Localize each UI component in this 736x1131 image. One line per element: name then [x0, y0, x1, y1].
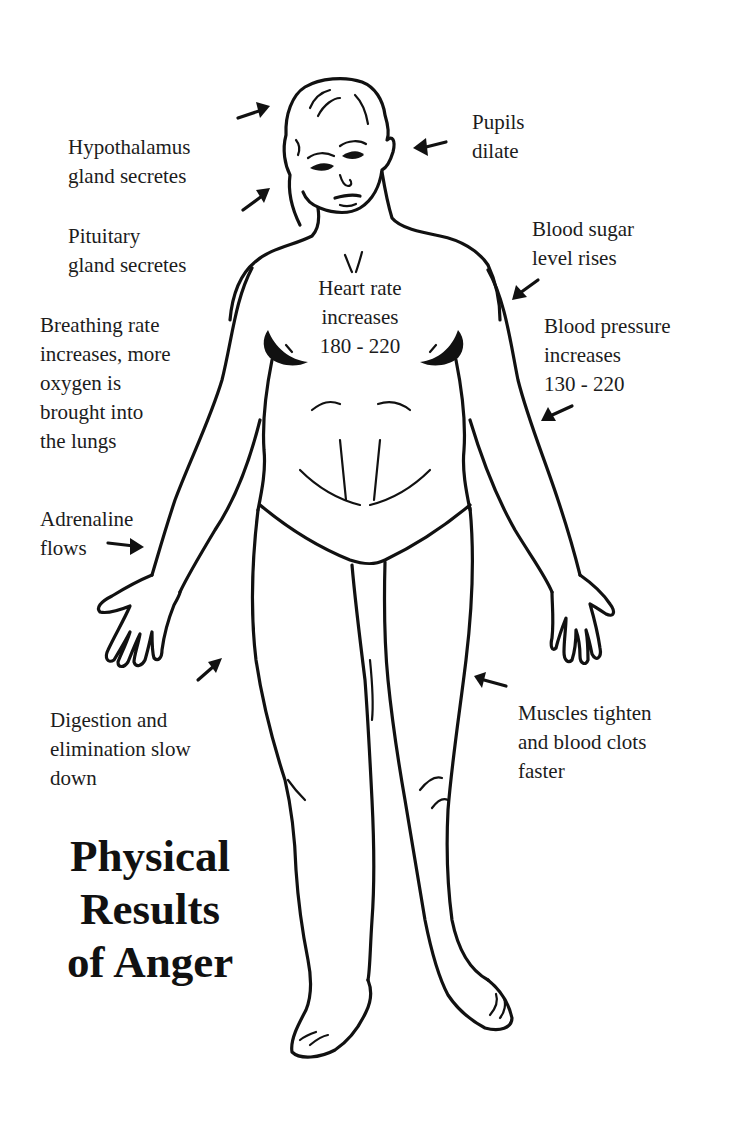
pituitary-arrow	[243, 188, 270, 210]
head	[284, 79, 394, 225]
title-line-1: Physical	[40, 830, 260, 883]
pupils-arrow	[413, 138, 446, 156]
pupils-label: Pupils dilate	[472, 108, 525, 166]
torso	[230, 172, 500, 564]
digestion-arrow	[198, 658, 222, 680]
breathing-label: Breathing rate increases, more oxygen is…	[40, 311, 171, 456]
hypothalamus-label: Hypothalamus gland secretes	[68, 133, 190, 191]
digestion-label: Digestion and elimination slow down	[50, 706, 191, 793]
blood-sugar-label: Blood sugar level rises	[532, 215, 634, 273]
title-line-3: of Anger	[40, 936, 260, 989]
heart-rate-label: Heart rate increases 180 - 220	[300, 274, 420, 361]
legs	[252, 508, 512, 1057]
muscles-arrow	[474, 672, 506, 688]
blood-sugar-arrow	[512, 280, 538, 300]
hypothalamus-arrow	[238, 102, 270, 118]
diagram-title: Physical Results of Anger	[40, 830, 260, 989]
pituitary-label: Pituitary gland secretes	[68, 222, 186, 280]
muscles-label: Muscles tighten and blood clots faster	[518, 699, 652, 786]
adrenaline-label: Adrenaline flows	[40, 505, 133, 563]
blood-pressure-arrow	[541, 406, 572, 421]
title-line-2: Results	[40, 883, 260, 936]
blood-pressure-label: Blood pressure increases 130 - 220	[544, 312, 671, 399]
